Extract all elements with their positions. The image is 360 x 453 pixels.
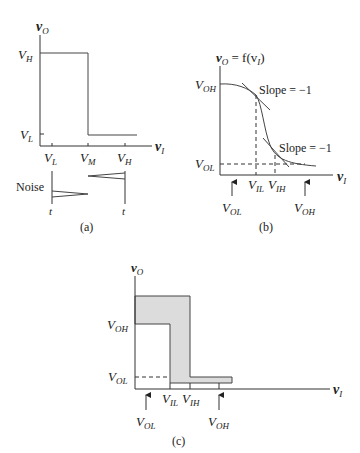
y-tick-vol: VOL — [195, 156, 214, 173]
y-axis-label: vO = f(vI) — [216, 50, 265, 67]
slope-label-2: Slope = −1 — [279, 141, 332, 155]
panel-c: vO vI VOH VOL VIL VIH VOL VOH (c) — [107, 260, 343, 448]
x-tick-vih: VIH — [182, 391, 200, 408]
x-tick-vih: VIH — [268, 177, 286, 194]
y-tick-vol: VOL — [108, 369, 127, 386]
x-axis-label: vI — [333, 382, 343, 399]
x-axis-label: vI — [337, 169, 347, 186]
x-tick-vm: VM — [80, 150, 96, 167]
time-label-2: t — [122, 205, 126, 217]
caption-b: (b) — [259, 220, 273, 234]
x-tick-vil: VIL — [162, 391, 178, 408]
y-tick-voh: VOH — [195, 77, 216, 94]
y-tick-voh: VOH — [107, 317, 128, 334]
y-axis-label: vO — [131, 260, 144, 277]
y-tick-vl: VL — [20, 127, 33, 144]
x-tick-vil: VIL — [248, 177, 264, 194]
panel-b: vO = f(vI) vI VOH VOL VIL VIH Slope = −1… — [195, 50, 347, 234]
x-axis-label: vI — [155, 139, 165, 156]
y-tick-vh: VH — [18, 47, 33, 64]
arrow-label-vol: VOL — [222, 200, 241, 217]
noise-triangle-1 — [52, 191, 88, 197]
noise-triangle-2 — [88, 173, 125, 179]
y-axis-label: vO — [36, 19, 49, 36]
arrow-label-voh: VOH — [208, 414, 229, 431]
arrow-label-voh: VOH — [294, 200, 315, 217]
shaded-region — [135, 296, 232, 383]
panel-a: vO vI VH VL VL VM VH Noise t t (a) — [16, 19, 165, 234]
caption-c: (c) — [172, 434, 185, 448]
ideal-transfer-curve — [40, 53, 137, 135]
x-tick-vh: VH — [117, 150, 132, 167]
caption-a: (a) — [80, 220, 93, 234]
arrow-label-vol: VOL — [136, 414, 155, 431]
x-tick-vl: VL — [44, 150, 57, 167]
noise-label: Noise — [16, 180, 44, 194]
time-label-1: t — [49, 205, 53, 217]
slope-label-1: Slope = −1 — [259, 83, 312, 97]
